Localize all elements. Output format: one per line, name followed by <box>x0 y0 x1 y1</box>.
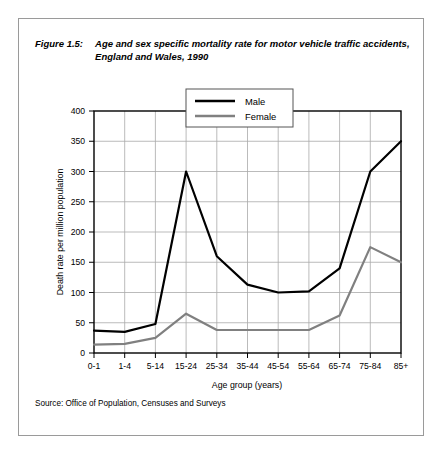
x-tick-label: 0-1 <box>88 361 101 371</box>
legend-label-female: Female <box>245 111 276 122</box>
y-tick-label: 100 <box>71 288 86 298</box>
y-tick-label: 350 <box>71 136 86 146</box>
y-tick-label: 0 <box>80 348 85 358</box>
y-axis-ticks: 050100150200250300350400 <box>71 106 94 358</box>
x-axis-title: Age group (years) <box>212 380 282 390</box>
figure-frame: Figure 1.5: Age and sex specific mortali… <box>18 18 424 436</box>
y-tick-label: 150 <box>71 257 86 267</box>
chart-plot: 050100150200250300350400 0-11-45-1415-24… <box>19 19 425 437</box>
y-tick-label: 300 <box>71 167 86 177</box>
x-tick-label: 5-14 <box>147 361 164 371</box>
x-tick-label: 55-64 <box>298 361 320 371</box>
x-tick-label: 15-24 <box>175 361 197 371</box>
x-tick-label: 75-84 <box>359 361 381 371</box>
y-axis-title: Death rate per million population <box>55 169 65 296</box>
y-tick-label: 400 <box>71 106 86 116</box>
x-tick-label: 35-44 <box>237 361 259 371</box>
x-tick-label: 1-4 <box>118 361 131 371</box>
legend-label-male: Male <box>245 96 265 107</box>
x-tick-label: 45-54 <box>267 361 289 371</box>
y-tick-label: 250 <box>71 197 86 207</box>
x-tick-label: 25-34 <box>206 361 228 371</box>
x-axis-ticks: 0-11-45-1415-2425-3435-4445-5455-6465-74… <box>88 353 409 371</box>
y-tick-label: 200 <box>71 227 86 237</box>
source-note: Source: Office of Population, Censuses a… <box>35 398 226 409</box>
legend-box <box>186 89 293 127</box>
chart-legend: Male Female <box>186 89 293 127</box>
line-chart-svg: 050100150200250300350400 0-11-45-1415-24… <box>19 19 425 437</box>
y-tick-label: 50 <box>75 318 85 328</box>
x-tick-label: 65-74 <box>329 361 351 371</box>
x-tick-label: 85+ <box>394 361 409 371</box>
